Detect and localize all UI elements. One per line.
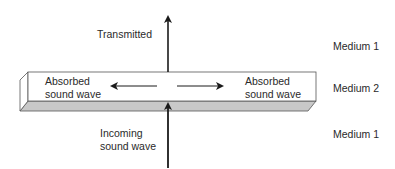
medium-1-top-label: Medium 1 (333, 40, 379, 53)
incoming-label: Incoming sound wave (100, 127, 156, 153)
absorbed-left-label: Absorbed sound wave (45, 75, 101, 101)
medium-1-bottom-label: Medium 1 (333, 128, 379, 141)
medium-2-label: Medium 2 (333, 82, 379, 95)
transmitted-label: Transmitted (97, 28, 152, 41)
absorbed-right-label: Absorbed sound wave (245, 75, 301, 101)
